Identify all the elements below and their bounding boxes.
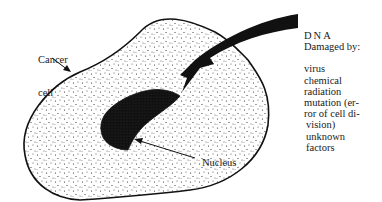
label-cancer-cell: Cancer cell — [38, 32, 68, 109]
label-cancer-line2: cell — [38, 87, 68, 98]
cause-item: chemical — [304, 75, 360, 86]
label-cancer-line1: Cancer — [38, 54, 68, 65]
label-nucleus: Nucleus — [202, 157, 236, 168]
cause-item: virus — [304, 63, 360, 74]
cause-item: unknown — [304, 131, 360, 142]
damaged-by-heading: Damaged by: — [304, 41, 360, 52]
cause-item: mutation (er- — [304, 97, 360, 108]
dna-title: DNA — [304, 30, 360, 41]
cause-item: factors — [304, 142, 360, 153]
causes-list: virus chemical radiation mutation (er- r… — [304, 63, 360, 153]
cause-item: ror of cell di- — [304, 108, 360, 119]
cause-item: radiation — [304, 86, 360, 97]
cause-item: vision) — [304, 119, 360, 130]
dna-damage-causes: DNA Damaged by: virus chemical radiation… — [304, 30, 360, 153]
